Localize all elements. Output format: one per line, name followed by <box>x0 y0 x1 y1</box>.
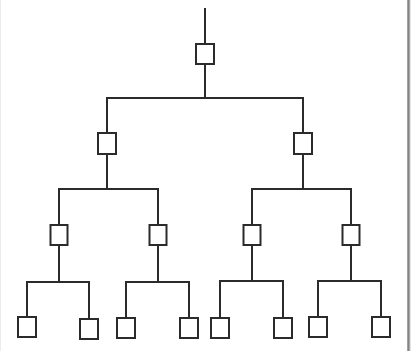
tree-diagram <box>0 0 411 351</box>
tree-node-level-3 <box>372 317 390 337</box>
tree-node-level-3 <box>18 317 36 337</box>
frame-right-edge <box>407 0 411 351</box>
tree-node-level-3 <box>117 318 135 338</box>
tree-node-level-3 <box>180 318 198 338</box>
tree-node-level-1 <box>294 133 312 154</box>
tree-node-level-3 <box>274 318 292 338</box>
tree-node-level-3 <box>80 319 98 339</box>
tree-node-level-2 <box>244 225 261 245</box>
tree-node-level-2 <box>51 225 68 245</box>
tree-node-level-2 <box>343 225 360 245</box>
tree-node-level-1 <box>98 133 116 154</box>
tree-node-level-0 <box>196 44 214 64</box>
tree-node-level-3 <box>211 318 229 338</box>
tree-node-level-2 <box>150 225 167 245</box>
tree-node-level-3 <box>309 317 327 337</box>
